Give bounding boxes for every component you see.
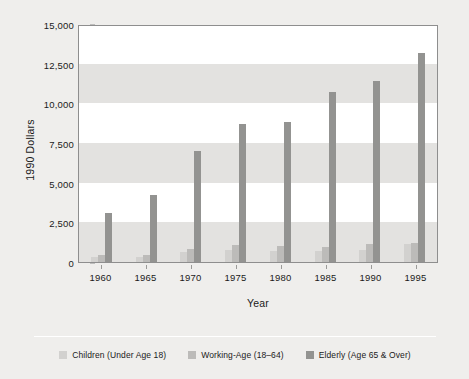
bar-group: [91, 26, 112, 262]
bar: [366, 244, 373, 262]
legend-label: Children (Under Age 18): [72, 350, 166, 360]
x-tick-label: 1970: [168, 265, 213, 283]
x-axis-ticks: 19601965197019751980198519901995: [78, 265, 438, 287]
bar-group: [404, 26, 425, 262]
x-tick-label: 1975: [213, 265, 258, 283]
bar: [187, 249, 194, 262]
legend-label: Elderly (Age 65 & Over): [319, 350, 411, 360]
legend-swatch-icon: [306, 351, 314, 359]
bar-group: [136, 26, 157, 262]
y-tick-label: 0: [22, 258, 74, 269]
x-tick-mark: [416, 265, 417, 269]
x-tick-mark: [191, 265, 192, 269]
x-tick-label: 1965: [123, 265, 168, 283]
bar: [143, 255, 150, 262]
bar: [150, 195, 157, 262]
bar-group: [359, 26, 380, 262]
bar: [239, 124, 246, 262]
y-tick-label: 15,000: [22, 20, 74, 31]
bar: [105, 213, 112, 262]
legend-item[interactable]: Working-Age (18–64): [188, 350, 284, 360]
x-tick-mark: [146, 265, 147, 269]
bar: [373, 81, 380, 262]
plot-area: [78, 25, 438, 263]
bar-groups: [79, 26, 437, 262]
x-tick-label: 1960: [78, 265, 123, 283]
bar: [225, 250, 232, 262]
legend-label: Working-Age (18–64): [201, 350, 284, 360]
bar: [418, 53, 425, 262]
x-tick-label: 1995: [393, 265, 438, 283]
x-tick-label: 1990: [348, 265, 393, 283]
bar: [411, 243, 418, 262]
bar: [232, 245, 239, 262]
bar: [98, 255, 105, 262]
bar-group: [315, 26, 336, 262]
chart-figure: 1990 Dollars 02,5005,0007,50010,00012,50…: [0, 0, 469, 379]
y-tick-label: 7,500: [22, 139, 74, 150]
bar: [404, 244, 411, 262]
y-tick-label: 10,000: [22, 99, 74, 110]
bar: [91, 257, 98, 262]
bar-group: [180, 26, 201, 262]
x-tick-mark: [371, 265, 372, 269]
bar: [270, 251, 277, 262]
bar: [136, 257, 143, 262]
x-tick-mark: [326, 265, 327, 269]
bar: [284, 122, 291, 262]
legend-swatch-icon: [59, 351, 67, 359]
x-tick-mark: [101, 265, 102, 269]
legend-swatch-icon: [188, 351, 196, 359]
y-axis-ticks: 02,5005,0007,50010,00012,50015,000: [16, 25, 74, 263]
bar: [277, 246, 284, 262]
bar: [329, 92, 336, 262]
chart-legend: Children (Under Age 18)Working-Age (18–6…: [34, 345, 436, 365]
x-tick-mark: [236, 265, 237, 269]
bar: [194, 151, 201, 262]
legend-item[interactable]: Elderly (Age 65 & Over): [306, 350, 411, 360]
y-tick-label: 2,500: [22, 218, 74, 229]
bar: [322, 247, 329, 262]
bar: [359, 250, 366, 262]
y-tick-label: 12,500: [22, 59, 74, 70]
bar: [315, 251, 322, 262]
x-tick-label: 1985: [303, 265, 348, 283]
legend-item[interactable]: Children (Under Age 18): [59, 350, 166, 360]
y-tick-label: 5,000: [22, 178, 74, 189]
bar-group: [225, 26, 246, 262]
bar: [180, 252, 187, 262]
x-tick-mark: [281, 265, 282, 269]
bar-group: [270, 26, 291, 262]
x-axis-title: Year: [78, 297, 438, 309]
x-tick-label: 1980: [258, 265, 303, 283]
legend-divider: [34, 336, 436, 337]
